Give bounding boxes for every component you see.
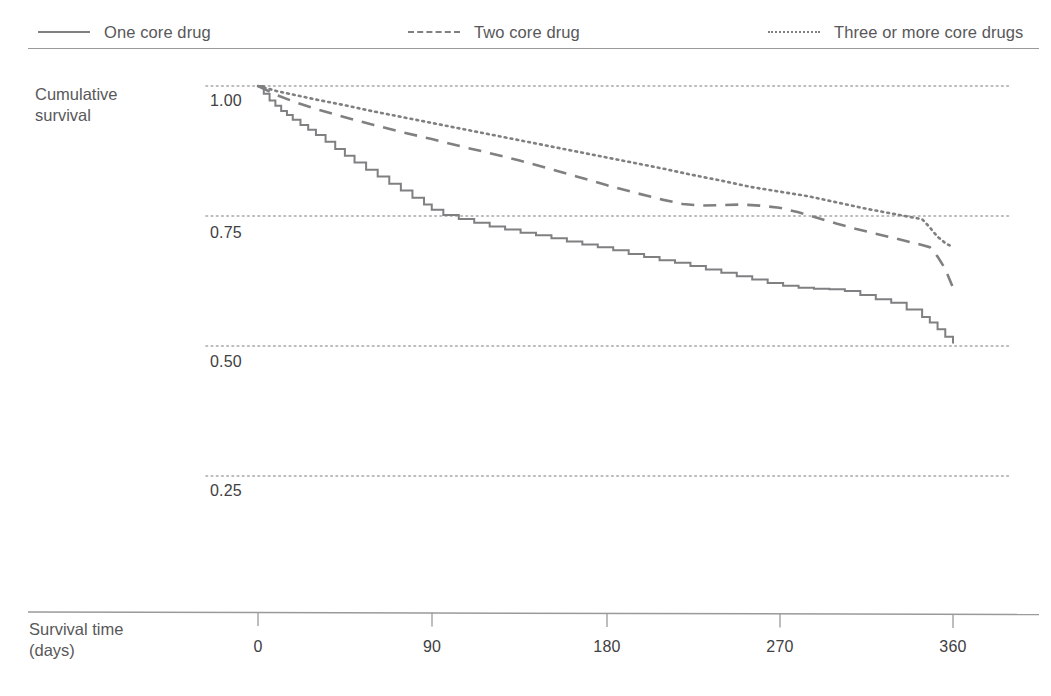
curve-two-core-drug	[258, 86, 953, 288]
gridlines	[206, 86, 1010, 476]
curve-one-core-drug	[258, 86, 953, 343]
x-axis-line-and-ticks	[28, 612, 1039, 628]
survival-curves	[258, 86, 953, 343]
survival-chart-figure: One core drug Two core drug Three or mor…	[0, 0, 1051, 696]
plot-area	[0, 0, 1051, 696]
curve-three-or-more-core-drugs	[258, 86, 953, 247]
